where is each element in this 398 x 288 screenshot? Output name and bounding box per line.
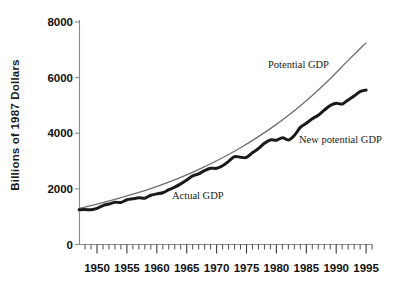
- gdp-chart-figure: Billions of 1987 Dollars 020004000600080…: [0, 0, 398, 288]
- potential-gdp-label: Potential GDP: [268, 59, 329, 70]
- actual-gdp-label: Actual GDP: [172, 190, 224, 201]
- new-potential-gdp-label: New potential GDP: [299, 134, 382, 145]
